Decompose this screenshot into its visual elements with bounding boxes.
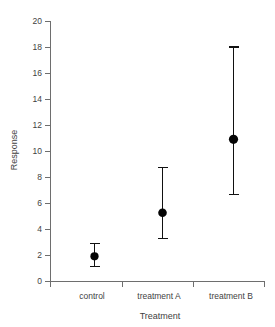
- y-tick-label: 0: [37, 276, 42, 286]
- x-tick-label-treatment-a: treatment A: [137, 291, 181, 301]
- y-axis-title: Response: [9, 130, 19, 171]
- x-tick-label-control: control: [79, 291, 105, 301]
- x-axis-title: Treatment: [140, 311, 181, 321]
- errorbar-chart: 0 2 4 6 8 10 12 14 16 18 20: [0, 0, 275, 327]
- mean-marker: [229, 135, 238, 144]
- y-tick-label: 18: [33, 42, 43, 52]
- y-tick-label: 12: [33, 120, 43, 130]
- y-tick-label: 10: [33, 146, 43, 156]
- y-tick-label: 14: [33, 94, 43, 104]
- y-tick-label: 6: [37, 198, 42, 208]
- chart-canvas: 0 2 4 6 8 10 12 14 16 18 20: [0, 0, 275, 327]
- y-tick-label: 2: [37, 250, 42, 260]
- data-point-treatment-a: [158, 167, 168, 239]
- x-axis-ticks: [51, 282, 265, 288]
- y-tick-label: 16: [33, 68, 43, 78]
- data-point-control: [90, 243, 100, 266]
- y-tick-label: 20: [33, 16, 43, 26]
- y-axis-ticks: 0 2 4 6 8 10 12 14 16 18 20: [33, 16, 51, 286]
- data-point-treatment-b: [229, 47, 239, 195]
- x-tick-label-treatment-b: treatment B: [209, 291, 253, 301]
- y-tick-label: 4: [37, 224, 42, 234]
- y-tick-label: 8: [37, 172, 42, 182]
- mean-marker: [158, 208, 167, 217]
- mean-marker: [90, 252, 98, 260]
